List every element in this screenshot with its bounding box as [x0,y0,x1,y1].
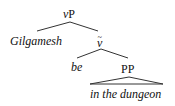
node-pp: PP [121,63,134,75]
branch-vbar-be [77,49,101,58]
node-vp-suffix: P [68,7,75,21]
branch-vbar-pp [101,49,128,58]
node-vp: vP [63,8,75,20]
node-gilgamesh: Gilgamesh [10,35,62,47]
pp-triangle [90,77,163,84]
syntax-tree: vP Gilgamesh ~ v be PP in the dungeon [0,0,175,106]
branch-vp-gilgamesh [37,22,70,31]
node-in-the-dungeon: in the dungeon [90,88,161,100]
branch-vp-vbar [70,22,98,31]
bar-mark: ~ [97,34,102,42]
node-be: be [71,61,82,73]
node-v-bar: ~ v [97,37,102,49]
